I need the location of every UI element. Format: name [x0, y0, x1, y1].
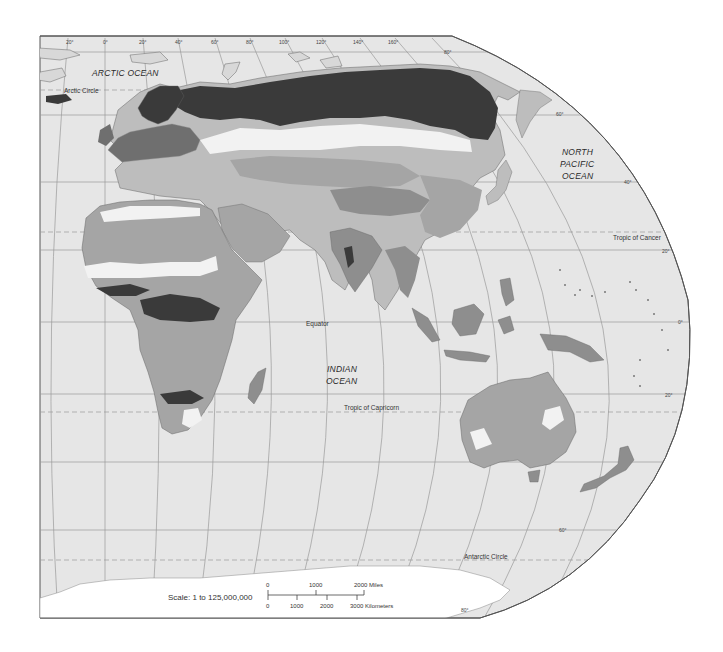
svg-text:60°: 60° [559, 527, 567, 533]
svg-text:3000 Kilometers: 3000 Kilometers [350, 603, 393, 609]
equator-label: Equator [306, 320, 330, 328]
svg-text:1000: 1000 [290, 603, 304, 609]
scale-ratio: Scale: 1 to 125,000,000 [168, 593, 253, 602]
antarctic-circle-label: Antarctic Circle [464, 553, 508, 560]
tasmania [528, 470, 540, 482]
svg-text:2000 Miles: 2000 Miles [354, 582, 383, 588]
arctic-ocean-label: ARCTIC OCEAN [91, 68, 159, 78]
svg-text:140°: 140° [353, 39, 363, 45]
north-pacific-label-3: OCEAN [562, 171, 594, 181]
vegetation-map: ARCTIC OCEAN NORTH PACIFIC OCEAN INDIAN … [0, 0, 723, 652]
arctic-circle-label: Arctic Circle [64, 87, 99, 94]
svg-text:20°: 20° [665, 392, 673, 398]
svg-text:1000: 1000 [309, 582, 323, 588]
svg-text:120°: 120° [316, 39, 326, 45]
svg-text:40°: 40° [624, 179, 632, 185]
svg-text:0°: 0° [678, 319, 683, 325]
indian-ocean-label-1: INDIAN [327, 364, 358, 374]
svg-text:100°: 100° [279, 39, 289, 45]
svg-text:20°: 20° [662, 248, 670, 254]
svg-text:20°: 20° [139, 39, 147, 45]
north-pacific-label-2: PACIFIC [560, 159, 595, 169]
indian-ocean-label-2: OCEAN [326, 376, 358, 386]
svg-text:80°: 80° [246, 39, 254, 45]
svg-text:2000: 2000 [320, 603, 334, 609]
svg-text:40°: 40° [175, 39, 183, 45]
svg-text:80°: 80° [444, 49, 452, 55]
north-pacific-label-1: NORTH [562, 147, 594, 157]
svg-text:160°: 160° [388, 39, 398, 45]
svg-text:0°: 0° [103, 39, 108, 45]
svg-text:80°: 80° [461, 607, 469, 613]
svg-text:20°: 20° [66, 39, 74, 45]
tropic-cancer-label: Tropic of Cancer [613, 234, 662, 242]
svg-text:60°: 60° [556, 111, 564, 117]
svg-text:60°: 60° [211, 39, 219, 45]
tropic-capricorn-label: Tropic of Capricorn [344, 404, 399, 412]
